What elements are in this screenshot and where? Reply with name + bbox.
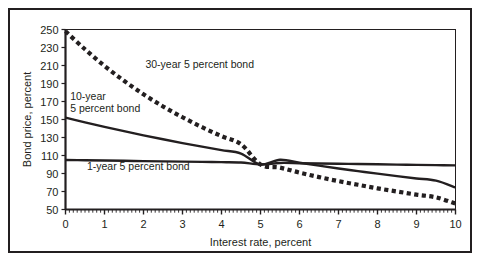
y-axis-tick-label: 110: [41, 150, 59, 162]
x-axis-tick-label: 3: [179, 218, 185, 230]
x-axis-tick-label: 9: [413, 218, 419, 230]
plot-area-group: 2502302101901701501301109070500123456789…: [21, 24, 462, 248]
x-axis-tick-label: 0: [62, 218, 68, 230]
y-axis-tick-label: 170: [40, 96, 58, 108]
y-axis-tick-label: 190: [40, 78, 58, 90]
y-axis-tick-label: 250: [40, 24, 58, 36]
series-label-1-year: 1-year 5 percent bond: [87, 160, 190, 172]
y-axis-tick-label: 130: [40, 132, 58, 144]
series-label-10-year-line1: 10-year: [70, 90, 106, 102]
series-label-10-year-line2: 5 percent bond: [70, 102, 140, 114]
x-axis-tick-label: 4: [218, 218, 224, 230]
y-axis-tick-label: 50: [46, 204, 58, 216]
x-axis-tick-label: 8: [374, 218, 380, 230]
y-axis-tick-label: 150: [40, 114, 58, 126]
series-label-30-year: 30-year 5 percent bond: [145, 58, 254, 70]
y-axis-tick-label: 70: [46, 186, 58, 198]
y-axis-tick-label: 90: [46, 168, 58, 180]
x-axis-tick-label: 1: [101, 218, 107, 230]
plot-frame: [66, 30, 456, 210]
figure-container: 2502302101901701501301109070500123456789…: [0, 0, 483, 265]
x-axis-tick-label: 2: [140, 218, 146, 230]
x-axis-tick-label: 5: [257, 218, 263, 230]
x-axis-tick-label: 10: [449, 218, 461, 230]
y-axis-title: Bond price, percent: [21, 72, 33, 167]
y-axis-tick-label: 210: [40, 60, 58, 72]
x-axis-tick-label: 6: [296, 218, 302, 230]
x-axis-tick-label: 7: [335, 218, 341, 230]
x-axis-title: Interest rate, percent: [210, 236, 312, 248]
bond-price-interest-rate-chart: 2502302101901701501301109070500123456789…: [0, 0, 483, 265]
y-axis-tick-label: 230: [40, 42, 58, 54]
